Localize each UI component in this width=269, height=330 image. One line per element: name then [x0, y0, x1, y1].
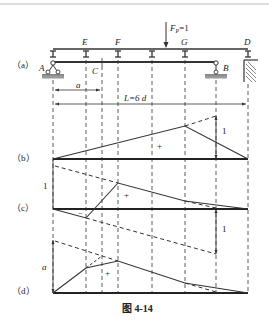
pin-support-A [42, 61, 64, 79]
c-neg-sign-label: − [78, 209, 83, 218]
point-F-label: F [114, 37, 121, 47]
projection-lines [53, 60, 248, 293]
dimension-L-label: L=6 d [123, 93, 147, 103]
load-arrow [164, 22, 169, 48]
fixed-wall-D [244, 60, 258, 82]
dimension-L [55, 103, 246, 106]
c-pos-sign-label: + [124, 190, 129, 200]
c-right-value-label: 1 [222, 224, 227, 234]
panel-b-label: （b） [12, 153, 35, 163]
point-A-label: A [38, 63, 45, 73]
c-left-value-label: 1 [43, 181, 48, 191]
point-G-label: G [181, 37, 188, 47]
post-E [83, 51, 89, 57]
dimension-a-label: a [76, 80, 81, 90]
point-D-label: D [243, 37, 251, 47]
panel-c-label: （c） [12, 203, 34, 213]
post-mid [149, 51, 155, 57]
load-label: FP=1 [169, 23, 189, 34]
d-solid-line [53, 261, 248, 293]
post-A [50, 51, 56, 57]
d-value-label: a [42, 262, 47, 272]
point-B-label: B [223, 63, 229, 73]
floor-beam-posts [50, 51, 251, 57]
b-solid-line [53, 126, 248, 159]
b-dashed-extension [185, 116, 216, 126]
post-F [115, 51, 121, 57]
figure-caption: 图 4-14 [122, 303, 153, 314]
influence-line-diagram: FP=1 E F G D A C B （a） [0, 0, 269, 330]
point-C-label: C [92, 66, 99, 76]
panel-c-influence-line [53, 159, 248, 254]
point-E-label: E [81, 37, 88, 47]
post-D [245, 51, 251, 57]
b-value-label: 1 [222, 126, 227, 136]
panel-a-structure: FP=1 E F G D A C B （a） [12, 22, 258, 106]
panel-b-influence-line [53, 116, 248, 159]
b-sign-label: + [157, 141, 162, 151]
panel-d-label: （d） [12, 286, 35, 296]
panel-a-label: （a） [12, 60, 34, 70]
post-G [182, 51, 188, 57]
d-sign-label: + [105, 268, 110, 278]
